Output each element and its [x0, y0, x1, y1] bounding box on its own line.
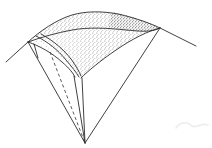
- vault-drawing-canvas: [0, 0, 212, 148]
- vault-drawing-figure: Perspective line drawing of a cross (gro…: [0, 0, 212, 148]
